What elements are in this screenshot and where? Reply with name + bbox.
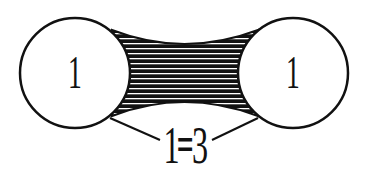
equation-operator: = xyxy=(177,117,194,171)
connector-line-right xyxy=(212,118,258,140)
diagram-canvas: 1 1 1 = 3 xyxy=(0,0,368,176)
hatched-bridge xyxy=(112,30,258,116)
connector-line-left xyxy=(110,118,160,140)
equation: 1 = 3 xyxy=(164,116,209,174)
right-node-label: 1 xyxy=(286,47,300,98)
left-node-label: 1 xyxy=(68,47,82,98)
equation-right: 3 xyxy=(192,116,208,174)
